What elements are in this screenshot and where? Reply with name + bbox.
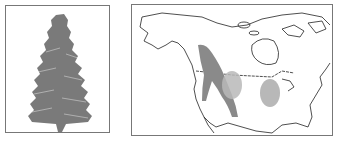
north-america-map	[132, 5, 332, 135]
tree-illustration-panel	[5, 5, 110, 133]
range-light-west	[222, 71, 242, 99]
conifer-tree-icon	[6, 6, 109, 132]
range-map-panel	[131, 4, 333, 136]
range-light-midwest	[260, 79, 280, 107]
